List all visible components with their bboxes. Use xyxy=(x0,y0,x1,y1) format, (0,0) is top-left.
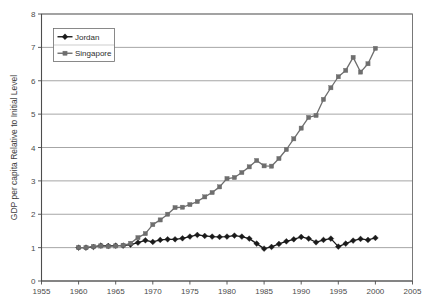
marker-singapore-1972 xyxy=(166,212,170,216)
chart-legend: JordanSingapore xyxy=(54,29,115,62)
marker-singapore-1968 xyxy=(136,236,140,240)
y-tick-label-7: 7 xyxy=(31,43,36,52)
x-tick-label-2005: 2005 xyxy=(404,287,422,296)
marker-singapore-1960 xyxy=(77,246,81,250)
marker-singapore-1964 xyxy=(106,244,110,248)
y-tick-label-4: 4 xyxy=(31,144,36,153)
marker-singapore-1989 xyxy=(292,137,296,141)
y-tick-label-5: 5 xyxy=(31,110,36,119)
marker-singapore-1994 xyxy=(329,86,333,90)
marker-singapore-1976 xyxy=(195,199,199,203)
x-tick-label-1985: 1985 xyxy=(255,287,273,296)
y-axis-title-group: GDP per capita Relative to Initial Level xyxy=(9,75,19,220)
marker-singapore-1961 xyxy=(84,246,88,250)
x-tick-label-1965: 1965 xyxy=(107,287,125,296)
marker-singapore-1962 xyxy=(91,245,95,249)
legend-label-jordan: Jordan xyxy=(75,33,99,42)
x-tick-label-1960: 1960 xyxy=(70,287,88,296)
marker-singapore-1999 xyxy=(366,62,370,66)
marker-singapore-1974 xyxy=(180,205,184,209)
marker-singapore-1982 xyxy=(240,170,244,174)
legend-marker-singapore xyxy=(63,51,67,55)
marker-singapore-1991 xyxy=(307,115,311,119)
x-tick-label-1990: 1990 xyxy=(292,287,310,296)
marker-singapore-1995 xyxy=(336,75,340,79)
marker-singapore-1988 xyxy=(284,147,288,151)
marker-singapore-1975 xyxy=(188,202,192,206)
marker-singapore-1980 xyxy=(225,176,229,180)
marker-singapore-1973 xyxy=(173,205,177,209)
marker-singapore-1985 xyxy=(262,164,266,168)
marker-singapore-1966 xyxy=(121,243,125,247)
marker-singapore-1986 xyxy=(269,164,273,168)
marker-singapore-1978 xyxy=(210,190,214,194)
marker-singapore-1998 xyxy=(358,70,362,74)
y-tick-label-1: 1 xyxy=(31,244,36,253)
marker-singapore-1967 xyxy=(128,241,132,245)
marker-singapore-1983 xyxy=(247,165,251,169)
y-tick-label-0: 0 xyxy=(31,277,36,286)
marker-singapore-1984 xyxy=(255,158,259,162)
marker-singapore-1987 xyxy=(277,156,281,160)
x-tick-label-1975: 1975 xyxy=(181,287,199,296)
x-tick-label-1995: 1995 xyxy=(329,287,347,296)
marker-singapore-1993 xyxy=(321,97,325,101)
legend-label-singapore: Singapore xyxy=(75,49,112,58)
y-tick-label-8: 8 xyxy=(31,10,36,19)
x-tick-label-2000: 2000 xyxy=(367,287,385,296)
marker-singapore-1996 xyxy=(344,68,348,72)
marker-singapore-1992 xyxy=(314,113,318,117)
marker-singapore-1971 xyxy=(158,218,162,222)
gdp-per-capita-line-chart: 1955196019651970197519801985199019952000… xyxy=(0,0,426,300)
y-axis-title: GDP per capita Relative to Initial Level xyxy=(9,75,19,220)
y-tick-label-3: 3 xyxy=(31,177,36,186)
marker-singapore-1981 xyxy=(232,175,236,179)
marker-singapore-1990 xyxy=(299,126,303,130)
marker-singapore-1965 xyxy=(114,244,118,248)
x-tick-label-1980: 1980 xyxy=(218,287,236,296)
marker-singapore-1963 xyxy=(99,244,103,248)
marker-singapore-1997 xyxy=(351,55,355,59)
marker-singapore-1970 xyxy=(151,222,155,226)
marker-singapore-2000 xyxy=(373,46,377,50)
marker-singapore-1969 xyxy=(143,232,147,236)
x-tick-label-1955: 1955 xyxy=(33,287,51,296)
marker-singapore-1977 xyxy=(203,195,207,199)
marker-singapore-1979 xyxy=(217,185,221,189)
y-tick-label-2: 2 xyxy=(31,210,36,219)
x-tick-label-1970: 1970 xyxy=(144,287,162,296)
y-tick-label-6: 6 xyxy=(31,77,36,86)
chart-figure: 1955196019651970197519801985199019952000… xyxy=(0,0,426,300)
